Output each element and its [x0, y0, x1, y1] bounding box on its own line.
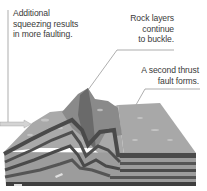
label-line: A second thrust: [141, 65, 199, 76]
compression-arrow-icon: [0, 120, 31, 128]
label-line: in more faulting.: [13, 29, 78, 40]
label-line: to buckle.: [130, 34, 174, 45]
label-line: squeezing results: [13, 19, 78, 30]
label-line: fault forms.: [141, 76, 199, 87]
slip-arrow-lower-icon: [14, 184, 22, 186]
label-second-thrust-fault: A second thrust fault forms.: [141, 65, 199, 86]
label-additional-squeezing: Additional squeezing results in more fau…: [13, 8, 78, 40]
label-line: continue: [130, 24, 174, 35]
label-line: Rock layers: [130, 13, 174, 24]
label-line: Additional: [13, 8, 78, 19]
label-rock-layers-buckle: Rock layers continue to buckle.: [130, 13, 174, 45]
